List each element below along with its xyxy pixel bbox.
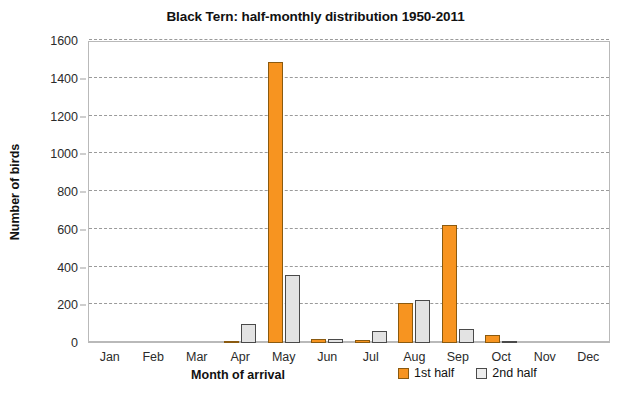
x-axis-tick-label: Apr xyxy=(219,350,263,364)
bar-may-series1 xyxy=(268,62,283,343)
y-axis-tickmark xyxy=(80,192,86,193)
y-axis-tick-label: 1400 xyxy=(50,72,78,86)
bar-jun-series1 xyxy=(311,339,326,343)
y-axis-tick-label: 600 xyxy=(57,223,78,237)
chart-title: Black Tern: half-monthly distribution 19… xyxy=(0,9,631,24)
bar-sep-series1 xyxy=(442,225,457,343)
x-axis-tick-label: Jun xyxy=(306,350,350,364)
bar-group xyxy=(523,41,567,343)
y-axis-tick-label: 800 xyxy=(57,185,78,199)
x-axis-tick-label: Mar xyxy=(175,350,219,364)
bar-group xyxy=(480,41,524,343)
bar-group xyxy=(132,41,176,343)
y-axis-tickmark xyxy=(80,116,86,117)
y-axis-tickmark xyxy=(80,229,86,230)
bar-oct-series1 xyxy=(485,335,500,343)
bar-jul-series2 xyxy=(372,331,387,343)
legend-label: 2nd half xyxy=(492,366,536,380)
legend-swatch-icon xyxy=(398,368,409,379)
legend-swatch-icon xyxy=(476,368,487,379)
gridline xyxy=(89,39,609,40)
x-axis-tick-label: Jul xyxy=(349,350,393,364)
y-axis-tick-label: 1000 xyxy=(50,147,78,161)
y-axis-tick-label: 200 xyxy=(57,298,78,312)
y-axis-tick-label: 0 xyxy=(71,336,78,350)
y-axis-tick-label: 1600 xyxy=(50,34,78,48)
bar-jul-series1 xyxy=(355,340,370,343)
legend-item: 2nd half xyxy=(476,366,536,380)
x-axis-ticks: JanFebMarAprMayJunJulAugSepOctNovDec xyxy=(88,345,610,365)
x-axis-tick-label: Dec xyxy=(567,350,611,364)
y-axis-tickmark xyxy=(80,305,86,306)
bar-group xyxy=(175,41,219,343)
bar-group xyxy=(567,41,611,343)
x-axis-title: Month of arrival xyxy=(88,368,388,382)
x-axis-tick-label: Sep xyxy=(436,350,480,364)
bar-group xyxy=(436,41,480,343)
y-axis-tick-label: 400 xyxy=(57,261,78,275)
y-axis-tick-label: 1200 xyxy=(50,110,78,124)
x-axis-tick-label: Feb xyxy=(132,350,176,364)
y-axis-tickmark xyxy=(80,154,86,155)
bar-apr-series2 xyxy=(241,324,256,343)
x-axis-tick-label: Jan xyxy=(88,350,132,364)
y-axis-tickmark xyxy=(80,267,86,268)
bar-oct-series2 xyxy=(502,341,517,344)
chart-container: Black Tern: half-monthly distribution 19… xyxy=(0,0,631,401)
y-axis-tickmark xyxy=(80,78,86,79)
bar-group xyxy=(306,41,350,343)
legend-item: 1st half xyxy=(398,366,454,380)
bar-aug-series2 xyxy=(415,300,430,343)
bar-series-group xyxy=(88,41,610,343)
bar-group xyxy=(349,41,393,343)
bar-group xyxy=(219,41,263,343)
bar-jun-series2 xyxy=(328,339,343,343)
legend-label: 1st half xyxy=(414,366,454,380)
x-axis-tick-label: May xyxy=(262,350,306,364)
bar-apr-series1 xyxy=(224,341,239,344)
bar-sep-series2 xyxy=(459,329,474,343)
x-axis-tick-label: Aug xyxy=(393,350,437,364)
bar-may-series2 xyxy=(285,275,300,343)
bar-group xyxy=(262,41,306,343)
x-axis-tick-label: Nov xyxy=(523,350,567,364)
chart-legend: 1st half2nd half xyxy=(398,366,537,380)
bar-group xyxy=(393,41,437,343)
bar-aug-series1 xyxy=(398,303,413,343)
x-axis-tick-label: Oct xyxy=(480,350,524,364)
y-axis-ticks: 02004006008001000120014001600 xyxy=(0,41,86,343)
bar-group xyxy=(88,41,132,343)
